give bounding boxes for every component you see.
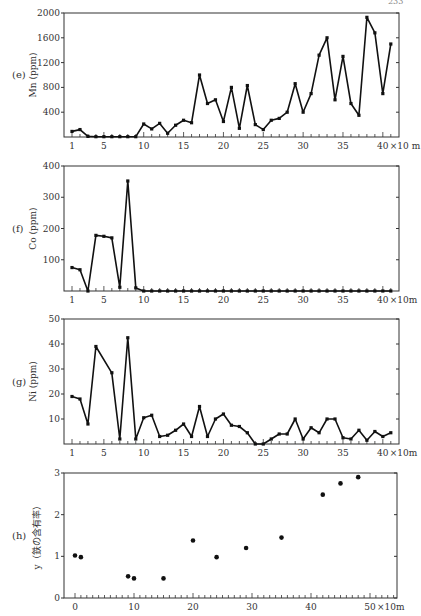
x-unit-label: ×10 m bbox=[390, 141, 421, 151]
data-line bbox=[72, 17, 391, 136]
data-point bbox=[230, 289, 233, 292]
data-point bbox=[389, 42, 392, 45]
y-tick-label: 3 bbox=[54, 468, 60, 478]
data-point bbox=[94, 345, 97, 348]
x-tick-label: 50 bbox=[364, 602, 376, 612]
plot-frame bbox=[64, 13, 399, 137]
x-tick-label: 0 bbox=[72, 602, 78, 612]
x-tick-label: 10 bbox=[138, 448, 150, 458]
data-point bbox=[134, 286, 137, 289]
data-point bbox=[174, 289, 177, 292]
data-point bbox=[270, 289, 273, 292]
data-point bbox=[102, 235, 105, 238]
data-point bbox=[270, 119, 273, 122]
x-tick-label: 30 bbox=[297, 448, 309, 458]
data-point bbox=[357, 114, 360, 117]
data-point bbox=[373, 289, 376, 292]
data-point bbox=[126, 135, 129, 138]
x-tick-label: 40 bbox=[377, 295, 389, 305]
data-point bbox=[356, 475, 361, 480]
data-point bbox=[222, 412, 225, 415]
data-point bbox=[70, 130, 73, 133]
data-point bbox=[333, 417, 336, 420]
data-point bbox=[310, 92, 313, 95]
data-point bbox=[110, 371, 113, 374]
data-point bbox=[78, 128, 81, 131]
data-point bbox=[325, 289, 328, 292]
data-point bbox=[302, 289, 305, 292]
data-point bbox=[126, 179, 129, 182]
data-point bbox=[321, 492, 326, 497]
data-point bbox=[73, 553, 78, 558]
x-tick-label: 30 bbox=[297, 141, 309, 151]
data-point bbox=[182, 289, 185, 292]
data-point bbox=[166, 434, 169, 437]
data-point bbox=[389, 431, 392, 434]
data-point bbox=[150, 414, 153, 417]
data-point bbox=[286, 111, 289, 114]
x-tick-label: 10 bbox=[138, 141, 150, 151]
panel-label: (e) bbox=[12, 69, 26, 80]
data-point bbox=[126, 574, 131, 579]
chart-iron-scatter: 012301020304050×10my（鉄の含有率）(h) bbox=[12, 468, 405, 612]
data-point bbox=[150, 127, 153, 130]
data-line bbox=[72, 338, 391, 444]
data-point bbox=[110, 135, 113, 138]
data-point bbox=[206, 435, 209, 438]
data-point bbox=[262, 289, 265, 292]
x-tick-label: 30 bbox=[297, 295, 309, 305]
data-point bbox=[166, 132, 169, 135]
data-point bbox=[132, 576, 137, 581]
data-point bbox=[294, 289, 297, 292]
y-tick-label: 1 bbox=[54, 551, 60, 561]
data-point bbox=[86, 422, 89, 425]
data-point bbox=[302, 111, 305, 114]
x-tick-label: 5 bbox=[101, 448, 107, 458]
data-point bbox=[381, 92, 384, 95]
data-point bbox=[357, 289, 360, 292]
x-tick-label: 35 bbox=[337, 295, 349, 305]
data-point bbox=[365, 439, 368, 442]
data-point bbox=[357, 429, 360, 432]
y-axis-label: Ni (ppm) bbox=[28, 361, 38, 402]
data-point bbox=[79, 555, 84, 560]
chart-co: 1002003004001510152025303540×10mCo (ppm)… bbox=[12, 161, 418, 305]
x-tick-label: 15 bbox=[178, 141, 190, 151]
y-tick-label: 100 bbox=[43, 255, 60, 265]
data-point bbox=[134, 135, 137, 138]
data-point bbox=[70, 395, 73, 398]
data-point bbox=[310, 426, 313, 429]
data-point bbox=[190, 121, 193, 124]
data-point bbox=[246, 289, 249, 292]
data-point bbox=[294, 82, 297, 85]
data-point bbox=[190, 435, 193, 438]
data-point bbox=[70, 266, 73, 269]
data-point bbox=[317, 54, 320, 57]
data-point bbox=[286, 289, 289, 292]
data-point bbox=[333, 289, 336, 292]
x-tick-label: 35 bbox=[337, 141, 349, 151]
x-tick-label: 35 bbox=[337, 448, 349, 458]
data-point bbox=[278, 289, 281, 292]
plot-frame bbox=[64, 473, 397, 598]
data-point bbox=[161, 576, 166, 581]
data-point bbox=[94, 234, 97, 237]
panel-label: (h) bbox=[12, 530, 26, 541]
chart-mn: 4008001200160020001510152025303540×10 mM… bbox=[12, 8, 421, 151]
y-tick-label: 300 bbox=[43, 192, 60, 202]
y-tick-label: 40 bbox=[49, 339, 61, 349]
data-point bbox=[341, 436, 344, 439]
data-point bbox=[338, 481, 343, 486]
data-point bbox=[302, 437, 305, 440]
data-point bbox=[279, 535, 284, 540]
data-point bbox=[142, 416, 145, 419]
x-unit-label: ×10m bbox=[390, 295, 418, 305]
data-point bbox=[349, 289, 352, 292]
data-point bbox=[110, 236, 113, 239]
data-point bbox=[86, 135, 89, 138]
data-point bbox=[198, 73, 201, 76]
x-unit-label: ×10m bbox=[390, 448, 418, 458]
data-point bbox=[317, 431, 320, 434]
data-point bbox=[198, 289, 201, 292]
x-tick-label: 30 bbox=[246, 602, 258, 612]
